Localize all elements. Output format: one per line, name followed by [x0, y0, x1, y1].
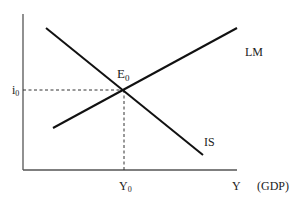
equilibrium-label: E0 [117, 66, 130, 83]
interest-rate-label: i0 [12, 83, 19, 98]
is-lm-diagram: E0 LM IS i0 Y0 Y (GDP) [0, 0, 303, 207]
x-axis-label: Y [232, 179, 241, 193]
output-equilibrium-label: Y0 [119, 179, 132, 194]
x-axis-unit-label: (GDP) [257, 179, 289, 193]
lm-curve [53, 28, 237, 128]
is-label: IS [204, 135, 215, 149]
lm-label: LM [245, 45, 263, 59]
